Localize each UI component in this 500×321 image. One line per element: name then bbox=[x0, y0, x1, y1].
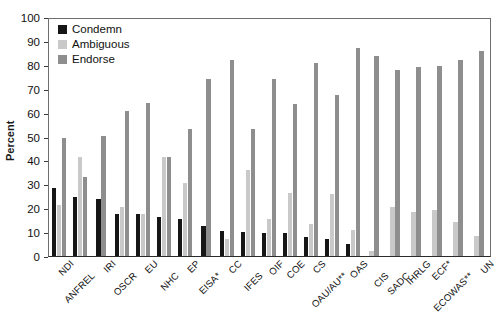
x-tick-label: NDI bbox=[56, 258, 76, 278]
bar-ambiguous bbox=[351, 230, 356, 256]
y-tick-70: 70 bbox=[27, 84, 40, 96]
x-tick-label: EU bbox=[142, 258, 159, 275]
bar-condemn bbox=[115, 214, 120, 256]
bar-condemn bbox=[73, 197, 78, 257]
chart-legend: CondemnAmbiguousEndorse bbox=[58, 22, 178, 67]
y-tick-30: 30 bbox=[27, 179, 40, 191]
bar-endorse bbox=[314, 63, 319, 256]
bar-group bbox=[175, 19, 196, 256]
x-tick-label: EP bbox=[184, 258, 201, 275]
x-tick-label: ANFREL bbox=[61, 270, 96, 305]
bar-ambiguous bbox=[411, 212, 416, 256]
legend-item-condemn: Condemn bbox=[58, 22, 178, 36]
x-tick-label: OAS bbox=[347, 258, 369, 280]
x-axis-tick-labels: NDIANFRELIRIOSCREUNHCEPEISA*CCIFESOIFCOE… bbox=[48, 258, 491, 320]
y-tick-mark-60 bbox=[44, 114, 48, 115]
y-tick-mark-50 bbox=[44, 138, 48, 139]
legend-swatch-condemn-icon bbox=[58, 25, 67, 34]
y-tick-10: 10 bbox=[27, 227, 40, 239]
bar-endorse bbox=[416, 67, 421, 256]
bar-endorse bbox=[251, 129, 256, 256]
x-tick-label: OAU/AU** bbox=[309, 270, 349, 310]
y-tick-mark-0 bbox=[44, 257, 48, 258]
bar-group bbox=[364, 19, 385, 256]
bar-group bbox=[238, 19, 259, 256]
y-tick-40: 40 bbox=[27, 155, 40, 167]
bar-condemn bbox=[325, 239, 330, 256]
bar-group bbox=[427, 19, 448, 256]
bar-endorse bbox=[188, 129, 193, 256]
x-tick-label: CS bbox=[310, 258, 327, 275]
bar-group bbox=[280, 19, 301, 256]
bar-ambiguous bbox=[183, 183, 188, 256]
bar-condemn bbox=[262, 233, 267, 256]
bar-endorse bbox=[335, 95, 340, 256]
bar-endorse bbox=[272, 79, 277, 256]
x-tick-label: OIF bbox=[266, 258, 285, 277]
bar-condemn bbox=[283, 233, 288, 256]
bar-group bbox=[406, 19, 427, 256]
bar-ambiguous bbox=[246, 170, 251, 256]
bar-ambiguous bbox=[453, 222, 458, 257]
y-tick-mark-100 bbox=[44, 18, 48, 19]
x-tick-label: OSCR bbox=[111, 270, 139, 298]
bar-endorse bbox=[479, 51, 484, 256]
bar-endorse bbox=[437, 66, 442, 256]
x-tick-label: IRI bbox=[101, 258, 118, 275]
bar-group bbox=[385, 19, 406, 256]
y-tick-100: 100 bbox=[21, 12, 40, 24]
bar-condemn bbox=[201, 226, 206, 256]
y-tick-20: 20 bbox=[27, 203, 40, 215]
legend-label: Endorse bbox=[72, 53, 115, 65]
x-tick-label: IHRLG bbox=[403, 258, 432, 287]
y-tick-80: 80 bbox=[27, 60, 40, 72]
bar-condemn bbox=[220, 231, 225, 256]
y-tick-90: 90 bbox=[27, 36, 40, 48]
bar-group bbox=[343, 19, 364, 256]
y-tick-mark-30 bbox=[44, 185, 48, 186]
y-tick-mark-70 bbox=[44, 90, 48, 91]
x-tick-label: EISA* bbox=[196, 270, 222, 296]
legend-label: Ambiguous bbox=[72, 38, 130, 50]
bar-endorse bbox=[230, 60, 235, 256]
legend-swatch-endorse-icon bbox=[58, 55, 67, 64]
y-tick-mark-90 bbox=[44, 42, 48, 43]
bar-ambiguous bbox=[141, 214, 146, 256]
bar-ambiguous bbox=[120, 207, 125, 256]
y-axis-tick-labels: 0102030405060708090100 bbox=[18, 0, 46, 321]
y-tick-mark-80 bbox=[44, 66, 48, 67]
bar-ambiguous bbox=[78, 157, 83, 256]
y-axis-title: Percent bbox=[2, 96, 18, 186]
bar-ambiguous bbox=[225, 239, 230, 256]
bar-endorse bbox=[356, 48, 361, 256]
bar-group bbox=[301, 19, 322, 256]
bar-condemn bbox=[304, 237, 309, 256]
bar-group bbox=[259, 19, 280, 256]
bar-ambiguous bbox=[288, 193, 293, 256]
bar-ambiguous bbox=[57, 205, 62, 256]
bar-group bbox=[469, 19, 490, 256]
bar-endorse bbox=[62, 138, 67, 256]
bar-ambiguous bbox=[369, 251, 374, 256]
bar-endorse bbox=[125, 111, 130, 256]
x-tick-label: UN bbox=[478, 258, 496, 276]
bar-endorse bbox=[458, 60, 463, 256]
bar-condemn bbox=[178, 219, 183, 256]
x-tick-label: IFES bbox=[241, 270, 264, 293]
bar-endorse bbox=[146, 103, 151, 257]
legend-item-endorse: Endorse bbox=[58, 52, 178, 66]
bar-ambiguous bbox=[267, 219, 272, 256]
bar-condemn bbox=[346, 244, 351, 256]
bar-endorse bbox=[293, 104, 298, 256]
bar-group bbox=[217, 19, 238, 256]
x-tick-label: ECF* bbox=[429, 258, 453, 282]
x-tick-label: COE bbox=[284, 258, 307, 281]
bar-condemn bbox=[241, 232, 246, 256]
bar-endorse bbox=[83, 177, 88, 256]
bar-endorse bbox=[374, 56, 379, 256]
bar-ambiguous bbox=[390, 207, 395, 256]
bar-condemn bbox=[157, 217, 162, 256]
legend-item-ambiguous: Ambiguous bbox=[58, 37, 178, 51]
bar-group bbox=[322, 19, 343, 256]
bar-ambiguous bbox=[474, 236, 479, 256]
